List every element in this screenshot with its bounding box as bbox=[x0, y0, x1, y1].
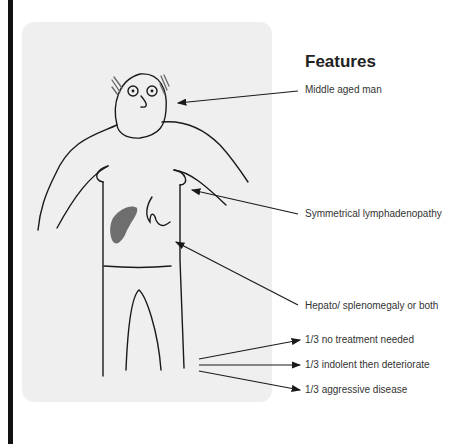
right-eye-pupil bbox=[151, 90, 154, 93]
label-middle-aged-man: Middle aged man bbox=[305, 84, 382, 95]
features-title: Features bbox=[305, 52, 376, 72]
label-indolent: 1/3 indolent then deteriorate bbox=[305, 359, 430, 370]
label-no-treatment: 1/3 no treatment needed bbox=[305, 334, 414, 345]
patient-figure-diagram bbox=[0, 0, 466, 444]
label-aggressive: 1/3 aggressive disease bbox=[305, 384, 407, 395]
label-lymphadenopathy: Symmetrical lymphadenopathy bbox=[305, 208, 442, 219]
left-eye-pupil bbox=[132, 90, 135, 93]
label-hepatosplenomegaly: Hepato/ splenomegaly or both bbox=[305, 300, 438, 311]
